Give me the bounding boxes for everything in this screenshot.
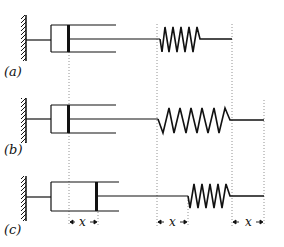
spring-piston-diagram: (a) (b) (c) x [0, 0, 284, 247]
panel-label: (a) [4, 64, 22, 79]
spring [160, 27, 232, 52]
spring [188, 184, 264, 208]
displacement-label: x [169, 215, 176, 229]
panel-label: (c) [4, 222, 21, 237]
piston [67, 105, 70, 133]
panel-a: (a) [4, 15, 232, 79]
panel-label: (b) [4, 142, 22, 157]
piston [95, 182, 98, 211]
piston [67, 25, 70, 52]
displacement-label: x [245, 215, 252, 229]
panel-b: (b) [4, 98, 264, 157]
displacement-label: x [79, 215, 86, 229]
spring [158, 108, 264, 133]
panel-c: (c) x x x [4, 176, 264, 237]
